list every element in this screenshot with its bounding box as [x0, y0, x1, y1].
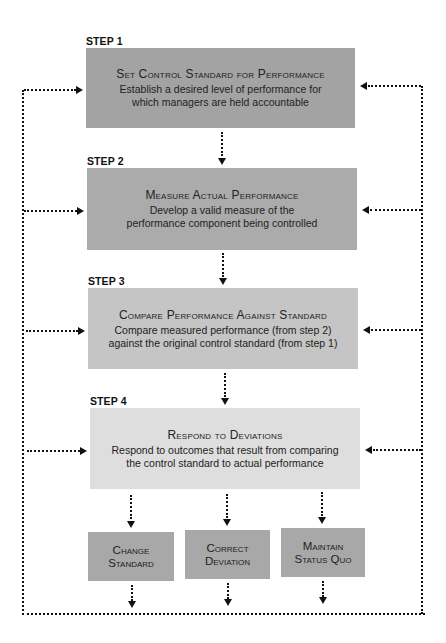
arrow-down-icon	[219, 278, 227, 285]
step-1-label: STEP 1	[86, 35, 123, 47]
arrow-left-icon	[363, 326, 370, 334]
outcome-correct-deviation: Correct Deviation	[185, 530, 270, 579]
outcome-2-line1: Correct	[206, 542, 248, 555]
outcome-3-line2: Status Quo	[295, 553, 352, 566]
step-3-description: Compare measured performance (from step …	[106, 324, 341, 350]
step-1-box: Set Control Standard for Performance Est…	[86, 48, 355, 128]
connector-3-4	[224, 373, 226, 397]
arrow-down-icon	[221, 398, 229, 405]
step-4-label: STEP 4	[90, 395, 127, 407]
arrow-right-icon	[80, 447, 87, 455]
feedback-right-step-4	[373, 449, 421, 451]
feedback-right-step-1	[368, 85, 421, 87]
step-4-description: Respond to outcomes that result from com…	[105, 444, 345, 470]
arrow-down-icon	[224, 599, 232, 606]
arrow-down-icon	[128, 601, 136, 608]
connector-1-2	[221, 132, 223, 156]
arrow-down-icon	[319, 597, 327, 604]
connector-4-outcome-1	[130, 495, 132, 519]
arrow-down-icon	[127, 521, 135, 528]
outcome-change-standard: Change Standard	[88, 532, 174, 581]
arrow-down-icon	[318, 517, 326, 524]
outcome-1-line1: Change	[113, 544, 150, 557]
step-2-description: Develop a valid measure of the performan…	[120, 204, 325, 230]
feedback-left-step-3	[26, 330, 78, 332]
step-3-label: STEP 3	[88, 275, 125, 287]
connector-4-outcome-3	[321, 492, 323, 516]
feedback-line-bottom	[27, 613, 425, 615]
outcome-maintain-status-quo: Maintain Status Quo	[281, 528, 365, 577]
arrow-right-icon	[76, 86, 83, 94]
connector-4-outcome-2	[226, 494, 228, 518]
feedback-right-step-2	[370, 209, 421, 211]
arrow-left-icon	[362, 206, 369, 214]
step-4-title: Respond to Deviations	[167, 428, 282, 442]
connector-outcome-3-feedback	[322, 581, 324, 597]
feedback-right-step-3	[371, 329, 421, 331]
step-1-description: Establish a desired level of performance…	[118, 83, 323, 109]
connector-outcome-2-feedback	[227, 583, 229, 599]
arrow-down-icon	[223, 519, 231, 526]
step-2-title: Measure Actual Performance	[145, 188, 298, 202]
step-1-title: Set Control Standard for Performance	[116, 67, 325, 81]
feedback-line-left	[22, 90, 24, 615]
step-3-title: Compare Performance Against Standard	[119, 308, 327, 322]
feedback-left-step-4	[27, 450, 80, 452]
arrow-left-icon	[360, 82, 367, 90]
feedback-left-step-1	[24, 89, 76, 91]
feedback-line-right	[421, 86, 423, 614]
feedback-left-step-2	[24, 210, 77, 212]
step-3-box: Compare Performance Against Standard Com…	[88, 288, 358, 369]
outcome-1-line2: Standard	[108, 557, 154, 570]
arrow-left-icon	[365, 446, 372, 454]
step-2-label: STEP 2	[87, 155, 124, 167]
connector-outcome-1-feedback	[131, 585, 133, 601]
outcome-3-line1: Maintain	[303, 540, 344, 553]
connector-2-3	[222, 253, 224, 277]
step-2-box: Measure Actual Performance Develop a val…	[87, 168, 357, 250]
arrow-down-icon	[218, 158, 226, 165]
step-4-box: Respond to Deviations Respond to outcome…	[90, 408, 360, 489]
arrow-right-icon	[78, 327, 85, 335]
outcome-2-line2: Deviation	[205, 555, 250, 568]
arrow-right-icon	[77, 207, 84, 215]
